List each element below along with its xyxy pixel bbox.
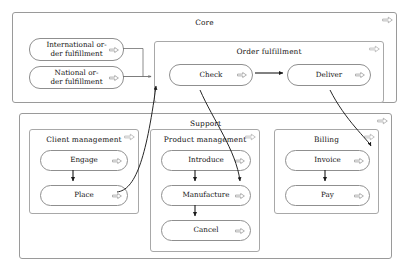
activity-invoice[interactable]: Invoice — [285, 150, 370, 171]
process-arrow-icon — [355, 72, 365, 79]
activity-manufacture[interactable]: Manufacture — [161, 185, 251, 206]
process-arrow-icon — [369, 45, 380, 53]
activity-place[interactable]: Place — [40, 185, 128, 206]
group-product-management-title: Product management — [151, 135, 259, 144]
activity-national-order-fulfillment[interactable]: National or- der fulfillment — [29, 66, 124, 89]
process-arrow-icon — [382, 16, 393, 24]
group-client-management-title: Client management — [30, 135, 138, 144]
pool-support[interactable]: Support Client management Engage Place — [19, 113, 392, 259]
activity-deliver[interactable]: Deliver — [287, 64, 371, 86]
pool-core-title: Core — [13, 18, 396, 27]
group-order-fulfillment[interactable]: Order fulfillment Check Deliver — [154, 41, 384, 103]
activity-cancel[interactable]: Cancel — [161, 220, 251, 241]
process-arrow-icon — [235, 192, 245, 199]
activity-national-order-fulfillment-label: National or- der fulfillment — [48, 69, 104, 85]
process-landscape-diagram: Core International or- der fulfillment N… — [0, 0, 409, 274]
activity-place-label: Place — [72, 191, 96, 199]
activity-check-label: Check — [198, 71, 225, 79]
activity-international-order-fulfillment[interactable]: International or- der fulfillment — [29, 38, 124, 61]
group-billing-title: Billing — [275, 135, 378, 144]
pool-core[interactable]: Core International or- der fulfillment N… — [12, 12, 397, 103]
process-arrow-icon — [109, 46, 119, 53]
process-arrow-icon — [354, 157, 364, 164]
pool-support-title: Support — [20, 119, 391, 128]
activity-international-order-fulfillment-label: International or- der fulfillment — [44, 41, 108, 57]
process-arrow-icon — [354, 192, 364, 199]
group-billing[interactable]: Billing Invoice Pay — [274, 129, 379, 214]
process-arrow-icon — [112, 192, 122, 199]
activity-check[interactable]: Check — [169, 64, 253, 86]
group-order-fulfillment-title: Order fulfillment — [155, 47, 383, 56]
activity-manufacture-label: Manufacture — [180, 191, 231, 199]
process-arrow-icon — [235, 227, 245, 234]
process-arrow-icon — [237, 72, 247, 79]
activity-introduce[interactable]: Introduce — [161, 150, 251, 171]
process-arrow-icon — [109, 74, 119, 81]
activity-deliver-label: Deliver — [314, 71, 344, 79]
process-arrow-icon — [112, 157, 122, 164]
activity-pay-label: Pay — [319, 191, 336, 199]
group-client-management[interactable]: Client management Engage Place — [29, 129, 139, 214]
group-product-management[interactable]: Product management Introduce Manufacture… — [150, 129, 260, 252]
activity-pay[interactable]: Pay — [285, 185, 370, 206]
activity-introduce-label: Introduce — [186, 156, 226, 164]
activity-engage[interactable]: Engage — [40, 150, 128, 171]
activity-invoice-label: Invoice — [312, 156, 342, 164]
process-arrow-icon — [364, 133, 375, 141]
activity-cancel-label: Cancel — [192, 226, 221, 234]
process-arrow-icon — [377, 117, 388, 125]
process-arrow-icon — [245, 133, 256, 141]
activity-engage-label: Engage — [68, 156, 100, 164]
process-arrow-icon — [124, 133, 135, 141]
process-arrow-icon — [235, 157, 245, 164]
